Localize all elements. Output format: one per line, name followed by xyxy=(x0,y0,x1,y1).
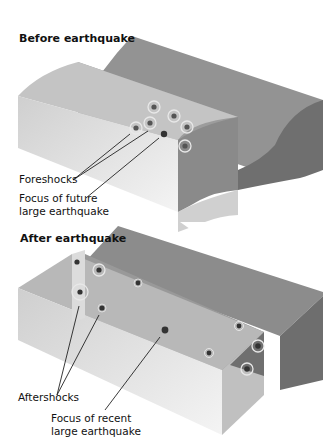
aftershocks-label: Aftershocks xyxy=(18,391,79,404)
aftershock-marker xyxy=(74,259,79,264)
before-title: Before earthquake xyxy=(19,32,135,45)
earthquake-diagram xyxy=(0,0,336,448)
recent-focus-dot xyxy=(162,327,169,334)
recent-focus-label-line2: large earthquake xyxy=(51,425,141,438)
future-focus-label-line2: large earthquake xyxy=(19,205,109,218)
after-title: After earthquake xyxy=(20,232,126,245)
future-focus-dot xyxy=(161,131,167,137)
future-focus-label-line1: Focus of future xyxy=(19,192,97,205)
foreshocks-label: Foreshocks xyxy=(19,173,78,186)
recent-focus-label-line1: Focus of recent xyxy=(51,412,131,425)
